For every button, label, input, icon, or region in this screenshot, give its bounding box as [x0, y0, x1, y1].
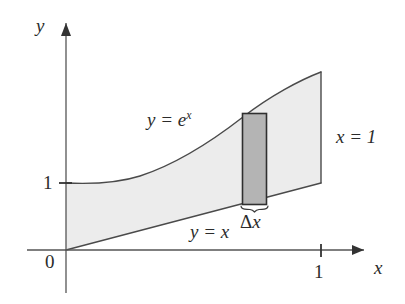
curve-label-exponential-base: y = e [147, 109, 186, 130]
representative-strip-rect [243, 114, 267, 205]
delta-x-variable: x [252, 211, 260, 232]
origin-label: 0 [45, 252, 55, 271]
line-label-y-equals-x: y = x [190, 222, 229, 241]
y-axis-tick-label-1: 1 [43, 173, 53, 192]
x-axis-label: x [374, 258, 382, 277]
y-axis-arrowhead [61, 23, 71, 36]
x-axis-tick-label-1: 1 [314, 262, 324, 281]
figure-canvas: y x 0 1 1 y = ex y = x x = 1 Δx [0, 0, 405, 304]
delta-symbol: Δ [240, 211, 252, 232]
curve-label-exponential: y = ex [147, 110, 191, 129]
diagram-svg [0, 0, 405, 304]
y-axis-label: y [36, 16, 44, 35]
line-label-x-equals-1: x = 1 [336, 127, 376, 146]
curve-label-exponential-exponent: x [186, 109, 191, 122]
x-axis-arrowhead [352, 245, 364, 255]
delta-x-label: Δx [240, 212, 261, 231]
